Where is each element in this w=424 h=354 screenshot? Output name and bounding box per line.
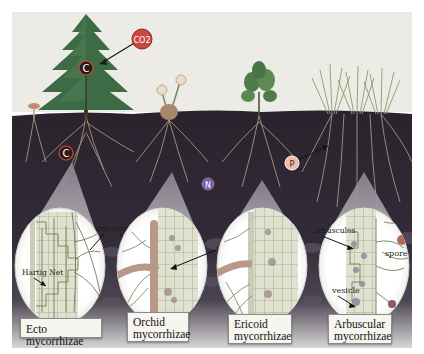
mycorrhizae-diagram: CO2 C C N P Hartig Net mycelium [12,12,412,348]
panel-label-ericoid: Ericoid mycorrhizae [228,314,292,344]
carbon-marker-top: C [79,61,93,75]
co2-marker: CO2 [132,29,152,49]
co2-label: CO2 [134,36,151,45]
panel-label-orchid: Orchid mycorrhizae [127,312,189,342]
nitrogen-marker: N [202,178,214,190]
svg-text:N: N [205,181,211,190]
annotation-spore: spore [385,249,408,258]
annotation-arbuscules: arbuscules [314,226,355,235]
annotation-hartig-net: Hartig Net [22,268,63,277]
carbon-marker-root: C [59,146,73,160]
svg-text:C: C [63,148,70,159]
panel-label-arbuscular: Arbuscular mycorrhizae [328,314,392,344]
svg-text:C: C [83,63,90,74]
annotation-vesicle: vesicle [331,286,360,295]
panel-label-ecto: Ecto mycorrhizae [20,318,102,338]
diagram-canvas: CO2 C C N P Hartig Net mycelium [12,12,412,348]
svg-text:P: P [290,160,295,169]
